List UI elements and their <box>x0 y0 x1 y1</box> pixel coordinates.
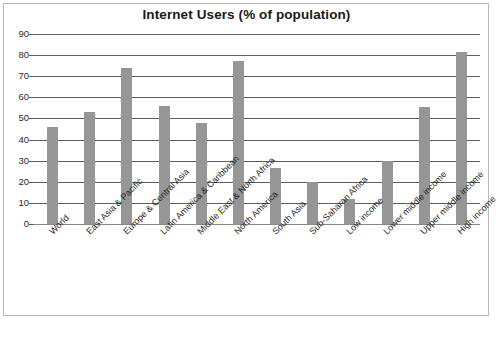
bar[interactable] <box>307 182 318 224</box>
y-tick-mark <box>29 55 34 56</box>
y-tick-mark <box>29 203 34 204</box>
y-tick-mark <box>29 224 34 225</box>
bar[interactable] <box>159 106 170 224</box>
y-tick-mark <box>29 118 34 119</box>
y-tick-mark <box>29 76 34 77</box>
y-tick-label: 70 <box>3 71 29 81</box>
y-tick-mark <box>29 161 34 162</box>
y-tick-label: 80 <box>3 50 29 60</box>
y-tick-mark <box>29 34 34 35</box>
y-tick-mark <box>29 97 34 98</box>
y-tick-label: 60 <box>3 92 29 102</box>
figure-caption <box>8 330 488 339</box>
y-tick-mark <box>29 140 34 141</box>
y-tick-label: 0 <box>3 219 29 229</box>
gridline <box>34 140 480 141</box>
bar[interactable] <box>196 123 207 224</box>
bar[interactable] <box>47 127 58 224</box>
gridline <box>34 76 480 77</box>
y-tick-label: 90 <box>3 29 29 39</box>
gridline <box>34 161 480 162</box>
bar[interactable] <box>419 107 430 224</box>
gridline <box>34 55 480 56</box>
bar[interactable] <box>84 112 95 224</box>
x-axis: WorldEast Asia & PacificEurope & Central… <box>34 228 480 318</box>
chart-title: Internet Users (% of population) <box>0 7 493 22</box>
gridline <box>34 182 480 183</box>
y-tick-mark <box>29 182 34 183</box>
bar[interactable] <box>382 161 393 224</box>
y-tick-label: 10 <box>3 198 29 208</box>
y-tick-label: 20 <box>3 177 29 187</box>
gridline <box>34 34 480 35</box>
y-tick-label: 50 <box>3 113 29 123</box>
y-tick-label: 30 <box>3 156 29 166</box>
gridline <box>34 118 480 119</box>
gridline <box>34 97 480 98</box>
y-tick-label: 40 <box>3 135 29 145</box>
y-axis: 9080706050403020100 <box>0 34 34 224</box>
